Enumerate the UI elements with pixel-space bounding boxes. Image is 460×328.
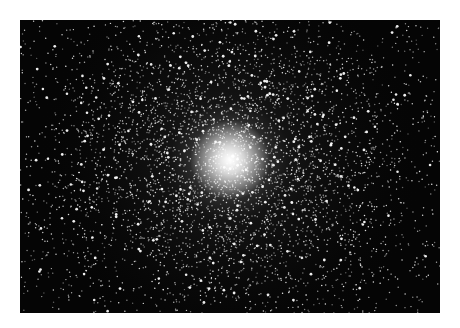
cluster-photo (20, 20, 440, 313)
star-field-canvas (20, 20, 440, 313)
